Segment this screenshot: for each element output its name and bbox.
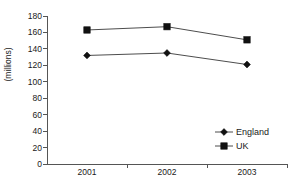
x-tick-label: 2002 [158,168,177,177]
legend-label: England [234,127,269,137]
y-tick-label: 60 [33,110,42,119]
y-tick-label: 160 [28,28,42,37]
data-point-england-2003 [244,61,251,68]
y-tick-label: 120 [28,61,42,70]
y-tick-label: 180 [28,12,42,21]
x-tick-label: 2001 [78,168,97,177]
data-point-england-2001 [84,52,91,59]
y-tick-label: 80 [33,94,42,103]
data-point-england-2002 [164,50,171,57]
data-point-uk-2003 [244,37,250,43]
diamond-marker-icon [214,126,234,138]
y-tick-label: 20 [33,143,42,152]
data-point-uk-2002 [164,23,170,29]
legend-label: UK [234,141,249,151]
square-marker-icon [214,140,234,152]
y-tick-label: 40 [33,127,42,136]
data-point-uk-2001 [84,27,90,33]
y-tick-label: 140 [28,45,42,54]
line-chart: 180160140120100806040200 (millions) 2001… [0,0,294,187]
y-tick-label: 100 [28,78,42,87]
y-tick-label: 0 [37,160,42,169]
x-tick-label: 2003 [238,168,257,177]
legend-marker [221,129,228,136]
legend-marker [221,143,227,149]
legend-item-uk[interactable]: UK [214,139,292,153]
data-series [84,23,251,67]
x-axis-tick-labels: 200120022003 [47,168,287,182]
legend-item-england[interactable]: England [214,125,292,139]
y-axis-title: (millions) [4,30,13,100]
chart-legend: EnglandUK [214,125,292,153]
